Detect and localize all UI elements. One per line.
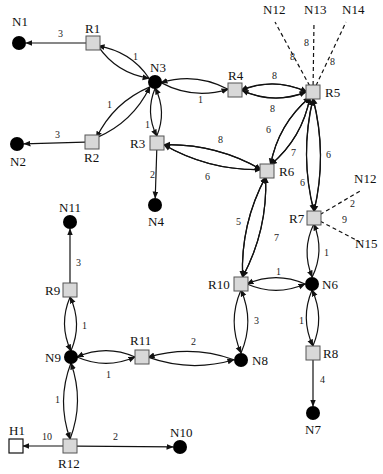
node-label: N10 — [170, 425, 192, 440]
edge-link-return — [155, 88, 161, 136]
edge-weight: 1 — [324, 247, 329, 258]
node-label: R8 — [323, 346, 338, 361]
edge-link — [306, 290, 313, 346]
node-label: R6 — [279, 164, 295, 179]
edge-weight: 1 — [299, 315, 304, 326]
edge-link-return — [148, 351, 234, 359]
edge-weight: 8 — [272, 70, 277, 81]
router-square-r9 — [63, 283, 77, 297]
edge-link — [242, 90, 307, 98]
edge-link-return — [164, 145, 261, 170]
node-label: R3 — [130, 136, 145, 151]
edge-link — [150, 88, 156, 136]
node-label: N6 — [322, 277, 338, 292]
edge-link — [164, 145, 261, 170]
node-label: R1 — [85, 21, 100, 36]
router-square-r8 — [306, 346, 320, 360]
edge-link — [307, 224, 314, 277]
edge-weight: 6 — [205, 171, 210, 182]
edge-link — [70, 297, 76, 351]
edge-dashed — [313, 22, 314, 85]
node-label: N12 — [263, 2, 285, 17]
edge-link — [148, 357, 234, 365]
edge-weight: 10 — [42, 431, 52, 442]
edge-dashed — [320, 190, 362, 214]
edge-link — [234, 290, 241, 353]
node-label: R5 — [325, 85, 340, 100]
router-square-r2 — [85, 135, 99, 149]
node-label: H1 — [9, 423, 25, 438]
edge-weight: 8 — [218, 134, 223, 145]
router-square-r12 — [63, 439, 77, 453]
edge-link — [306, 99, 313, 212]
edge-weight: 2 — [350, 198, 355, 209]
router-square-r4 — [228, 83, 242, 97]
edge-link-return — [77, 351, 135, 357]
edge-weight: 1 — [107, 99, 112, 110]
edge-weight: 8 — [330, 56, 335, 67]
node-circle-n8 — [234, 353, 248, 367]
edge-weight: 1 — [276, 266, 281, 277]
node-label: R4 — [228, 68, 244, 83]
node-label: R12 — [58, 456, 80, 471]
edge-weight: 2 — [191, 336, 196, 347]
edge-weight: 5 — [236, 216, 241, 227]
edge-weight: 6 — [326, 149, 331, 160]
edge-dashed — [316, 22, 346, 86]
node-circle-n7 — [306, 406, 320, 420]
edge-link — [63, 363, 70, 439]
node-circle-n10 — [173, 440, 187, 454]
node-label: R10 — [208, 277, 230, 292]
node-circle-n1 — [12, 36, 26, 50]
router-square-r7 — [307, 211, 321, 225]
router-square-r6 — [260, 164, 274, 178]
edge-weight: 3 — [58, 28, 63, 39]
host-square-h1 — [9, 439, 23, 453]
diagram-canvas: 33111188286676657113142131110288829N1N2N… — [0, 0, 383, 474]
edge-link-return — [312, 290, 319, 346]
node-label: N14 — [342, 2, 365, 17]
node-label: N2 — [10, 154, 26, 169]
edge-directed — [24, 142, 85, 144]
network-diagram: 33111188286676657113142131110288829N1N2N… — [0, 0, 383, 474]
edge-link-return — [242, 84, 307, 92]
router-square-r3 — [150, 136, 164, 150]
edge-link — [98, 46, 149, 78]
node-circle-n4 — [148, 198, 162, 212]
node-label: N7 — [305, 422, 321, 437]
edge-link-return — [313, 99, 320, 212]
edge-link-return — [312, 224, 319, 277]
edge-link-return — [247, 278, 305, 284]
edge-link-return — [64, 297, 70, 351]
node-circle-n6 — [305, 277, 319, 291]
edge-link — [247, 284, 305, 290]
edge-weight: 4 — [320, 374, 325, 385]
edge-weight: 1 — [55, 394, 60, 405]
edge-weight: 1 — [133, 51, 138, 62]
nodes-layer — [9, 36, 321, 454]
edge-weight: 1 — [82, 320, 87, 331]
edge-link-return — [241, 290, 248, 353]
node-label: N1 — [12, 14, 28, 29]
node-label: N11 — [59, 200, 81, 215]
edge-link-return — [98, 46, 149, 78]
node-label: R9 — [45, 283, 60, 298]
router-square-r11 — [135, 350, 149, 364]
edge-link-return — [96, 87, 150, 138]
edge-weight: 7 — [274, 232, 279, 243]
edge-link-return — [164, 145, 261, 170]
edge-weight: 8 — [290, 51, 295, 62]
edge-weight: 6 — [266, 124, 271, 135]
edge-weight: 1 — [145, 119, 150, 130]
edge-link — [77, 357, 135, 363]
node-label: R11 — [130, 333, 151, 348]
router-square-r10 — [234, 277, 248, 291]
node-label: N8 — [252, 353, 268, 368]
edge-weight: 3 — [55, 129, 60, 140]
edge-weight: 8 — [270, 103, 275, 114]
edge-link — [164, 145, 261, 170]
node-circle-n9 — [64, 350, 78, 364]
edge-weight: 9 — [342, 214, 347, 225]
edge-link-return — [242, 177, 265, 277]
edge-directed — [155, 150, 157, 198]
